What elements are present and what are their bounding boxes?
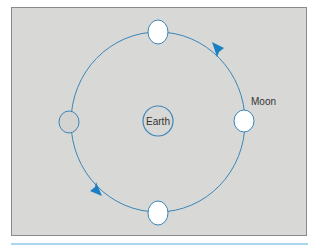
moon-left [59,111,79,133]
earth: Earth [143,106,173,136]
moon-bottom [148,201,168,225]
orbit-arrow-upper-right-icon [212,42,224,57]
moon-label: Moon [251,96,276,107]
moon-right [234,110,254,132]
moon-orbit-diagram: Earth Moon [0,0,319,251]
moon-top [148,20,168,44]
earth-label: Earth [146,116,170,127]
bottom-rule [11,243,308,245]
